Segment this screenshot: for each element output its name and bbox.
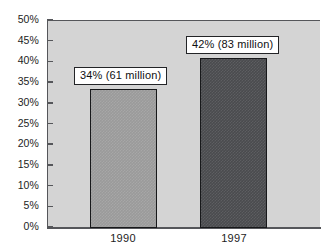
y-tick-label-5: 5% bbox=[24, 199, 39, 211]
bar-1990 bbox=[90, 89, 157, 228]
y-tick-label-20: 20% bbox=[18, 137, 39, 149]
data-label-1997: 42% (83 million) bbox=[186, 36, 279, 54]
x-tick-label-1990: 1990 bbox=[83, 232, 163, 244]
y-tick-mark-30 bbox=[47, 102, 53, 104]
y-tick-mark-40 bbox=[47, 61, 53, 63]
y-tick-mark-20 bbox=[47, 143, 53, 145]
y-tick-label-40: 40% bbox=[18, 54, 39, 66]
y-tick-label-15: 15% bbox=[18, 158, 39, 170]
y-tick-label-50: 50% bbox=[18, 13, 39, 25]
y-tick-mark-10 bbox=[47, 185, 53, 187]
y-tick-label-0: 0% bbox=[24, 220, 39, 232]
y-tick-mark-25 bbox=[47, 123, 53, 125]
y-tick-mark-35 bbox=[47, 81, 53, 83]
bar-chart: 50% 45% 40% 35% 30% 25% 20% 15% bbox=[0, 0, 336, 252]
x-axis-line bbox=[47, 227, 321, 229]
y-tick-mark-0 bbox=[47, 226, 53, 228]
y-tick-label-30: 30% bbox=[18, 96, 39, 108]
y-tick-label-10: 10% bbox=[18, 179, 39, 191]
bar-1997 bbox=[200, 58, 267, 228]
y-tick-label-25: 25% bbox=[18, 117, 39, 129]
data-label-1990: 34% (61 million) bbox=[74, 67, 167, 85]
y-tick-mark-15 bbox=[47, 164, 53, 166]
y-tick-label-45: 45% bbox=[18, 34, 39, 46]
y-tick-mark-50 bbox=[47, 19, 53, 21]
y-axis: 50% 45% 40% 35% 30% 25% 20% 15% bbox=[0, 0, 47, 252]
y-tick-label-35: 35% bbox=[18, 75, 39, 87]
x-tick-label-1997: 1997 bbox=[194, 232, 274, 244]
y-tick-mark-5 bbox=[47, 206, 53, 208]
y-tick-mark-45 bbox=[47, 40, 53, 42]
